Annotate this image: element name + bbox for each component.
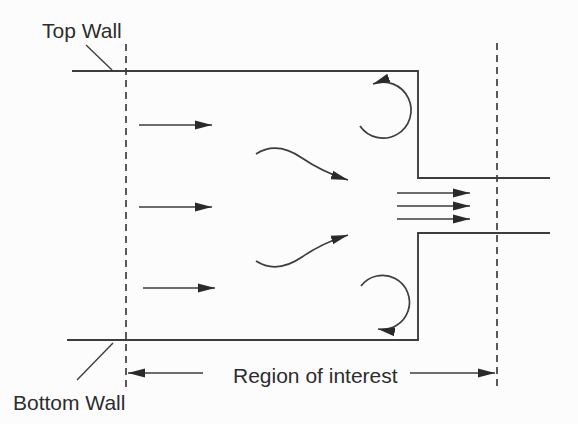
region-of-interest-label: Region of interest <box>233 364 398 387</box>
bottom-wall-label: Bottom Wall <box>13 391 125 414</box>
top-wall-label: Top Wall <box>42 19 122 42</box>
flow-diagram-svg: Top Wall Bottom Wall Region of interest <box>0 0 578 424</box>
diagram-background <box>0 0 578 424</box>
diagram-canvas: Top Wall Bottom Wall Region of interest <box>0 0 578 424</box>
